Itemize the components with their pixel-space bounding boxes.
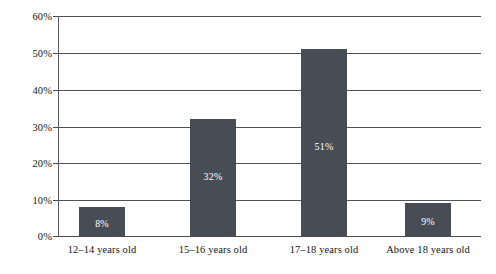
y-tickmark-40 [53, 90, 58, 91]
y-tickmark-60 [53, 16, 58, 17]
y-axis-label-50: 50% [6, 49, 52, 60]
x-axis-category-above-18: Above 18 years old [365, 245, 491, 256]
x-axis-category-12-14: 12–14 years old [42, 245, 162, 256]
bar-chart: 60% 50% 40% 30% 20% 10% 0% 8% 32% 51% 9%… [0, 0, 496, 274]
y-tickmark-0 [53, 236, 58, 237]
y-axis-label-40: 40% [6, 86, 52, 97]
y-axis-label-20: 20% [6, 159, 52, 170]
bar-15-16: 32% [190, 119, 236, 236]
gridline-30 [58, 127, 481, 128]
y-axis-label-30: 30% [6, 123, 52, 134]
y-axis-label-60: 60% [6, 12, 52, 23]
bar-above-18: 9% [405, 203, 451, 236]
gridline-50 [58, 53, 481, 54]
bar-value-label: 32% [190, 172, 236, 182]
y-tickmark-50 [53, 53, 58, 54]
bar-value-label: 51% [301, 142, 347, 152]
y-tickmark-30 [53, 127, 58, 128]
y-axis-label-0: 0% [6, 232, 52, 243]
y-tickmark-10 [53, 200, 58, 201]
bar-12-14: 8% [79, 207, 125, 236]
gridline-40 [58, 90, 481, 91]
gridline-20 [58, 163, 481, 164]
bar-value-label: 8% [79, 219, 125, 229]
y-axis-line [58, 16, 59, 237]
gridline-10 [58, 200, 481, 201]
bar-17-18: 51% [301, 49, 347, 236]
bar-value-label: 9% [405, 217, 451, 227]
y-axis-label-10: 10% [6, 196, 52, 207]
gridline-60 [58, 16, 481, 17]
y-tickmark-20 [53, 163, 58, 164]
x-axis-line [58, 236, 481, 237]
x-axis-category-15-16: 15–16 years old [153, 245, 273, 256]
